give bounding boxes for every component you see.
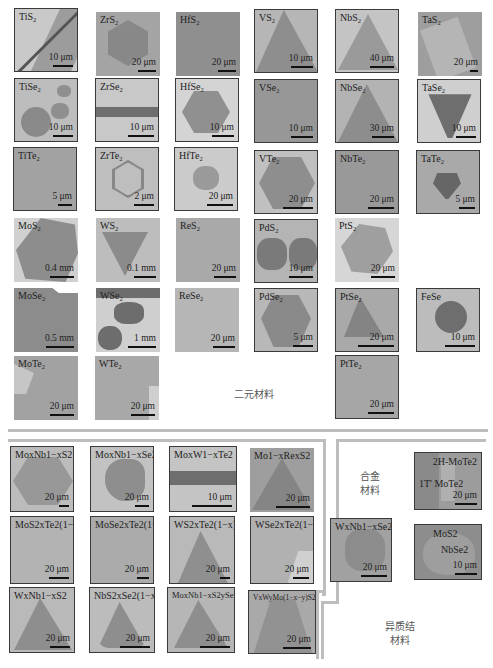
section-divider <box>336 439 486 442</box>
tile-vse2: VSe2 10 μm <box>254 79 318 143</box>
tile-wse2: WSe2 1 mm <box>96 288 160 352</box>
tile-tise2: TiSe2 10 μm <box>14 78 78 142</box>
tile-zrte2: ZrTe2 2 μm <box>95 147 159 211</box>
tile-mote2: MoTe2 20 μm <box>14 356 78 420</box>
tile-alloy-9: WxNb1−xSe2 20 μm <box>330 518 392 582</box>
section-divider <box>322 593 326 596</box>
material-label: TiS2 <box>19 12 36 24</box>
tile-vte2: VTe2 20 μm <box>254 150 318 214</box>
tile-vs2: VS2 10 μm <box>254 9 318 73</box>
tile-tate2: TaTe2 5 μm <box>416 150 480 214</box>
tile-hetero-1: 2H-MoTe2 1T' MoTe2 20 μm <box>414 452 482 510</box>
tile-zrs2: ZrS2 20 μm <box>96 12 160 76</box>
tile-alloy-1: MoxNb1−xS2 20 μm <box>10 446 74 512</box>
tile-pds2: PdS2 10 μm <box>254 219 318 283</box>
tile-alloy-5: MoS2xTe2(1−x) 20 μm <box>10 516 74 584</box>
tile-nbse2: NbSe2 30 μm <box>335 79 399 143</box>
tile-wte2: WTe2 20 μm <box>95 356 159 420</box>
tile-rese2: ReSe2 20 μm <box>175 288 239 352</box>
tile-tite2: TiTe2 5 μm <box>13 147 77 211</box>
tile-pdse2: PdSe2 5 μm <box>254 288 318 352</box>
scale-bar <box>53 65 73 67</box>
tile-mose2: MoSe2 0.5 mm <box>14 288 78 352</box>
tile-alloy-8: WSe2xTe2(1−x) 20 μm <box>250 516 314 584</box>
binary-section-label: 二元材料 <box>224 388 284 402</box>
tile-alloy-6: MoSe2xTe2(1−x) 20 μm <box>90 516 154 584</box>
tile-tase2: TaSe2 10 μm <box>417 79 481 143</box>
section-divider <box>316 590 319 659</box>
alloy-section-label: 合金 材料 <box>340 470 400 497</box>
section-divider <box>8 439 326 442</box>
tile-hfse2: HfSe2 10 μm <box>175 78 239 142</box>
tile-alloy-7: WS2xTe2(1−x) 20 μm <box>169 516 235 584</box>
tile-fese: FeSe 10 μm <box>416 288 480 352</box>
tile-alloy-12: MoxNb1−xS2ySe2(1−y) 20 μm <box>167 587 235 653</box>
tile-zrse2: ZrSe2 10 μm <box>95 78 159 142</box>
tile-ptte2: PtTe2 20 μm <box>335 355 399 419</box>
tile-res2: ReS2 20 μm <box>176 218 240 282</box>
tile-tis2: TiS2 10 μm <box>14 8 78 72</box>
heterostructure-section-label: 异质结 材料 <box>370 620 430 647</box>
tile-hetero-2: MoS2 NbSe2 10 μm <box>414 524 482 580</box>
tile-nbte2: NbTe2 20 μm <box>335 150 399 214</box>
tile-tas2: TaS2 20 μm <box>418 12 482 76</box>
tile-alloy-4: Mo1−xRexS2 20 μm <box>250 448 314 512</box>
tile-ptse2: PtSe2 20 μm <box>335 288 399 352</box>
tile-alloy-10: WxNb1−xS2 20 μm <box>9 587 75 653</box>
tile-pts2: PtS2 20 μm <box>335 218 399 282</box>
section-divider <box>323 439 326 591</box>
tile-alloy-3: MoxW1−xTe2 10 μm <box>169 446 237 512</box>
tile-alloy-11: NbS2xSe2(1−x) 20 μm <box>89 587 155 653</box>
tile-nbs2: NbS2 40 μm <box>335 9 399 73</box>
section-divider <box>318 590 326 593</box>
scale-label: 10 μm <box>49 52 73 62</box>
tile-hfs2: HfS2 20 μm <box>176 12 240 76</box>
tile-ws2: WS2 0.1 mm <box>96 218 160 282</box>
tile-alloy-13: VxWyMo(1−x−y)S2zSe2(1−z) 20 μm <box>248 590 316 654</box>
section-divider <box>8 429 488 432</box>
tile-alloy-2: MoxNb1−xSe2 20 μm <box>90 446 154 512</box>
tile-mos2: MoS2 0.4 mm <box>14 218 78 282</box>
section-divider <box>321 601 324 659</box>
tile-hfte2: HfTe2 20 μm <box>174 147 238 211</box>
